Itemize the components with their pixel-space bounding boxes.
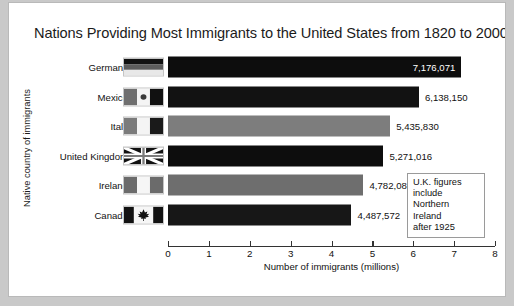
x-tick-label: 3 (288, 248, 293, 259)
bar-value-label: 4,782,083 (369, 180, 412, 191)
bar-canada (168, 204, 351, 225)
chart-page: Nations Providing Most Immigrants to the… (8, 2, 506, 297)
annotation-line: include (413, 188, 479, 199)
x-tick-label: 4 (329, 248, 334, 259)
x-tick-label: 1 (206, 248, 211, 259)
bar-row: Italy5,435,830 (9, 114, 506, 138)
x-tick (168, 241, 169, 246)
x-tick (250, 241, 251, 246)
x-tick-label: 6 (411, 248, 416, 259)
x-tick-label: 5 (370, 248, 375, 259)
bar-italy (168, 116, 390, 137)
annotation-line: after 1925 (413, 222, 479, 233)
bar-value-label: 7,176,071 (413, 62, 456, 73)
annotation-line: Northern (413, 199, 479, 210)
germany-flag (123, 58, 164, 77)
x-tick (413, 241, 414, 246)
canada-flag (123, 205, 164, 224)
category-label-united-kingdom: United Kingdom (60, 150, 128, 161)
x-tick (291, 241, 292, 246)
plot-area: Germany7,176,071Mexico6,138,150Italy5,43… (9, 3, 506, 297)
x-tick (332, 241, 333, 246)
bar-row: United Kingdom5,271,016 (9, 144, 506, 168)
bar-value-label: 5,435,830 (396, 121, 439, 132)
bar-row: Germany7,176,071 (9, 55, 506, 79)
x-tick (454, 241, 455, 246)
x-tick (209, 241, 210, 246)
bar-mexico (168, 86, 419, 107)
mexico-flag (123, 87, 164, 106)
x-tick-label: 7 (451, 248, 456, 259)
x-axis-label: Number of immigrants (millions) (168, 261, 495, 272)
bar-united-kingdom (168, 145, 383, 166)
italy-flag (123, 117, 164, 136)
x-tick-label: 8 (492, 248, 497, 259)
united-kingdom-flag (123, 146, 164, 165)
bar-value-label: 6,138,150 (425, 91, 468, 102)
ireland-flag (123, 176, 164, 195)
bar-row: Mexico6,138,150 (9, 85, 506, 109)
annotation-line: U.K. figures (413, 177, 479, 188)
x-tick (495, 241, 496, 246)
x-tick-label: 2 (247, 248, 252, 259)
x-tick (372, 241, 373, 246)
bar-ireland (168, 175, 363, 196)
annotation-line: Ireland (413, 211, 479, 222)
annotation-box: U.K. figuresincludeNorthernIrelandafter … (407, 173, 485, 238)
bar-value-label: 5,271,016 (389, 150, 432, 161)
bar-value-label: 4,487,572 (357, 209, 400, 220)
x-tick-label: 0 (165, 248, 170, 259)
